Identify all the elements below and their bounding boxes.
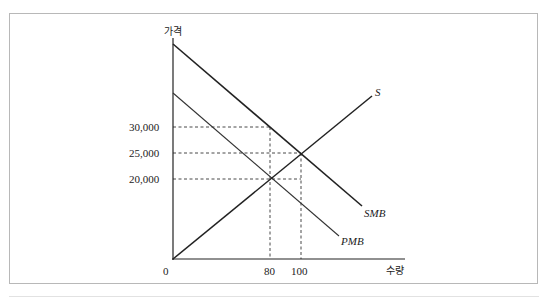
externality-chart: 가격 수량 0 80 100 30,000 25,000 20,000 S SM… (0, 0, 550, 298)
y-tick-30000: 30,000 (129, 121, 160, 133)
x-tick-80: 80 (264, 265, 276, 277)
pmb-label: PMB (340, 235, 364, 247)
y-axis-label: 가격 (164, 25, 182, 37)
origin-label: 0 (163, 265, 169, 277)
y-tick-20000: 20,000 (129, 173, 160, 185)
y-tick-25000: 25,000 (129, 147, 160, 159)
x-axis-label: 수량 (386, 265, 404, 276)
guide-lines (173, 127, 301, 259)
x-tick-100: 100 (291, 265, 308, 277)
supply-label: S (375, 86, 381, 98)
smb-label: SMB (364, 207, 386, 219)
